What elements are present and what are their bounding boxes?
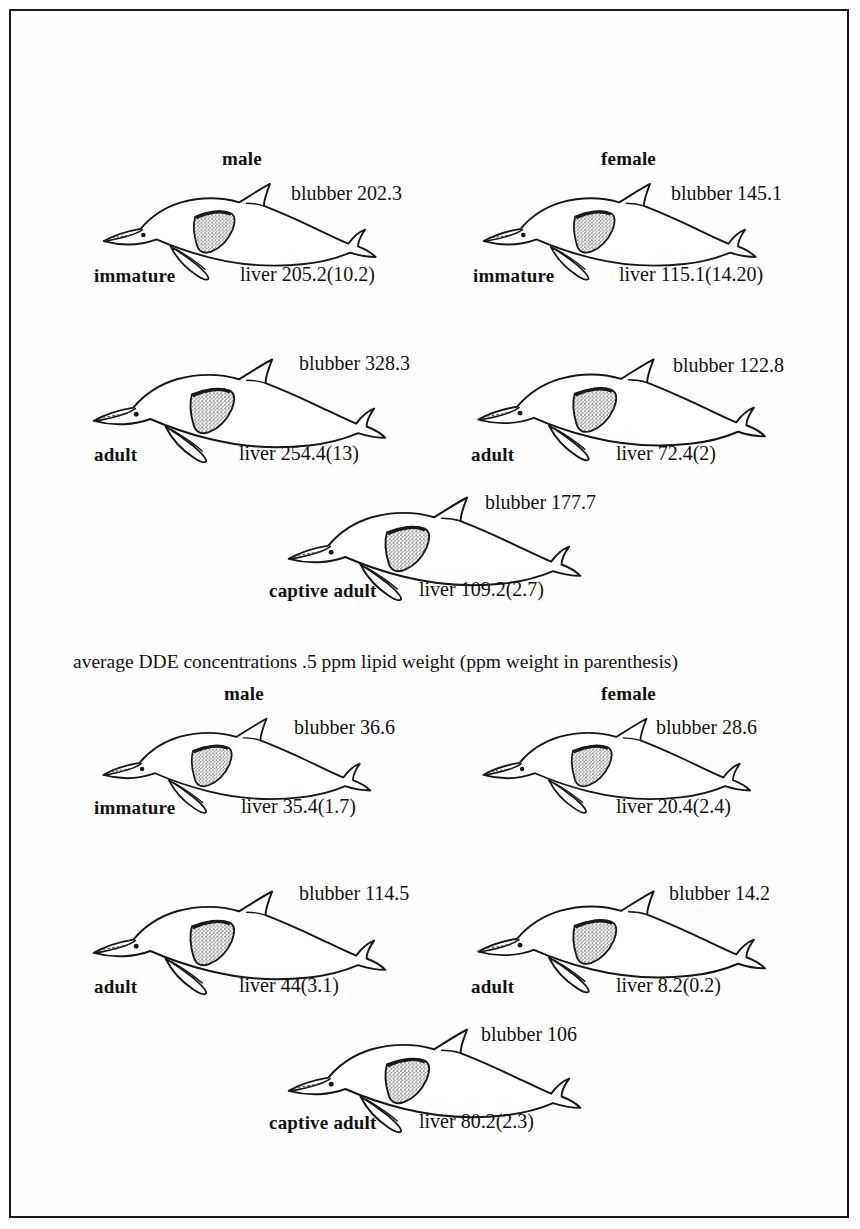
stage-upper-captive-adult: captive adult [269, 581, 377, 600]
heading-lower-female: female [601, 684, 656, 703]
stage-upper-female-immature: immature [473, 266, 554, 285]
stage-upper-female-adult: adult [471, 445, 514, 464]
stage-upper-male-immature: immature [94, 266, 175, 285]
liver-upper-male-immature: liver 205.2(10.2) [240, 264, 375, 284]
figure-caption: average DDE concentrations .5 ppm lipid … [73, 652, 678, 672]
blubber-upper-male-adult: blubber 328.3 [299, 353, 410, 373]
blubber-lower-captive-adult: blubber 106 [481, 1024, 577, 1044]
figure-frame: male blubber 202.3 immature liver 205.2(… [9, 9, 849, 1218]
liver-upper-captive-adult: liver 109.2(2.7) [419, 579, 544, 599]
liver-lower-captive-adult: liver 80.2(2.3) [419, 1111, 534, 1131]
blubber-upper-male-immature: blubber 202.3 [291, 183, 402, 203]
blubber-lower-male-immature: blubber 36.6 [294, 717, 395, 737]
stage-lower-male-adult: adult [94, 977, 137, 996]
blubber-lower-female-immature: blubber 28.6 [656, 717, 757, 737]
liver-lower-male-immature: liver 35.4(1.7) [241, 796, 356, 816]
liver-lower-male-adult: liver 44(3.1) [239, 975, 339, 995]
blubber-upper-female-immature: blubber 145.1 [671, 183, 782, 203]
stage-lower-female-adult: adult [471, 977, 514, 996]
blubber-lower-male-adult: blubber 114.5 [299, 883, 409, 903]
liver-upper-female-immature: liver 115.1(14.20) [619, 264, 763, 284]
blubber-upper-female-adult: blubber 122.8 [673, 355, 784, 375]
heading-upper-male: male [222, 149, 262, 168]
blubber-lower-female-adult: blubber 14.2 [669, 883, 770, 903]
stage-lower-captive-adult: captive adult [269, 1113, 377, 1132]
liver-upper-female-adult: liver 72.4(2) [616, 443, 716, 463]
heading-upper-female: female [601, 149, 656, 168]
liver-upper-male-adult: liver 254.4(13) [239, 443, 359, 463]
heading-lower-male: male [224, 684, 264, 703]
stage-lower-male-immature: immature [94, 798, 175, 817]
blubber-upper-captive-adult: blubber 177.7 [485, 492, 596, 512]
liver-lower-female-adult: liver 8.2(0.2) [616, 975, 721, 995]
figure-content: male blubber 202.3 immature liver 205.2(… [11, 11, 847, 1216]
liver-lower-female-immature: liver 20.4(2.4) [616, 796, 731, 816]
stage-upper-male-adult: adult [94, 445, 137, 464]
